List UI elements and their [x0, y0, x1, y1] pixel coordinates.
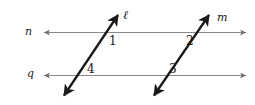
transversal-line-l [64, 15, 118, 96]
label-angle-4: 4 [87, 63, 95, 75]
label-transversal-m: m [217, 12, 227, 23]
label-angle-3: 3 [169, 63, 177, 75]
geometry-figure: n q ℓ m 1 2 3 4 [0, 0, 255, 105]
label-angle-2: 2 [186, 35, 194, 47]
label-line-n: n [25, 26, 32, 37]
label-transversal-l: ℓ [123, 9, 128, 21]
label-line-q: q [27, 68, 34, 79]
label-angle-1: 1 [109, 35, 117, 47]
transversal-line-m [154, 15, 209, 96]
